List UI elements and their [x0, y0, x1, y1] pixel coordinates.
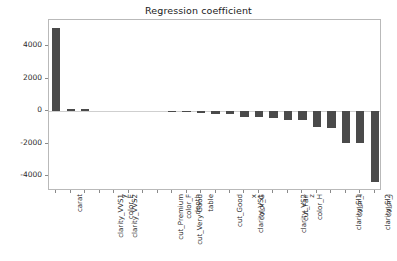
y-tick-mark: [45, 143, 48, 144]
bar: [211, 111, 219, 113]
x-tick-label: color_H: [316, 194, 324, 220]
y-tick-mark: [45, 78, 48, 79]
bar: [342, 111, 350, 143]
y-tick-label: -2000: [0, 138, 42, 147]
bar: [327, 111, 335, 128]
bar: [81, 109, 89, 111]
x-tick-label: cut_Premium: [176, 194, 184, 240]
x-tick-label: table: [206, 194, 214, 212]
x-tick-mark: [171, 190, 172, 193]
bar: [67, 109, 75, 111]
bar: [284, 111, 292, 119]
x-tick-mark: [70, 190, 71, 193]
x-tick-label: y: [120, 194, 128, 198]
bar: [226, 111, 234, 114]
bar: [356, 111, 364, 143]
bar: [182, 111, 190, 112]
y-tick-mark: [45, 110, 48, 111]
bar: [298, 111, 306, 120]
x-tick-mark: [243, 190, 244, 193]
bars-layer: [49, 20, 380, 189]
x-tick-mark: [128, 190, 129, 193]
bar: [197, 111, 205, 113]
x-tick-mark: [215, 190, 216, 193]
x-tick-mark: [272, 190, 273, 193]
x-tick-label: x: [251, 194, 259, 198]
figure: Regression coefficient caratclarity_VVS1…: [0, 0, 397, 261]
y-tick-label: 0: [0, 105, 42, 114]
x-tick-mark: [55, 190, 56, 193]
x-tick-mark: [330, 190, 331, 193]
x-tick-label: color_I: [356, 194, 364, 217]
bar: [255, 111, 263, 117]
x-tick-mark: [374, 190, 375, 193]
bar: [269, 111, 277, 117]
bar: [313, 111, 321, 127]
x-tick-mark: [359, 190, 360, 193]
x-tick-mark: [229, 190, 230, 193]
bar: [52, 28, 60, 112]
x-tick-mark: [345, 190, 346, 193]
y-tick-label: 2000: [0, 73, 42, 82]
x-tick-mark: [316, 190, 317, 193]
x-tick-label: color_F: [184, 194, 192, 219]
x-tick-mark: [258, 190, 259, 193]
x-tick-label: cut_Good: [236, 194, 244, 227]
x-tick-mark: [99, 190, 100, 193]
x-tick-mark: [200, 190, 201, 193]
x-tick-mark: [157, 190, 158, 193]
bar: [168, 111, 176, 112]
x-tick-label: color_G: [258, 194, 266, 220]
y-tick-label: 4000: [0, 40, 42, 49]
y-tick-label: -4000: [0, 170, 42, 179]
x-tick-label: color_J: [385, 194, 393, 217]
x-tick-label: carat: [76, 194, 84, 212]
y-tick-mark: [45, 175, 48, 176]
x-tick-mark: [287, 190, 288, 193]
x-tick-mark: [84, 190, 85, 193]
x-tick-mark: [142, 190, 143, 193]
x-tick-label: z: [308, 194, 316, 198]
x-tick-mark: [113, 190, 114, 193]
bar: [371, 111, 379, 182]
x-tick-label: clarity_VVS1: [116, 194, 124, 238]
x-tick-label: depth: [194, 194, 202, 214]
plot-area: [48, 19, 381, 190]
x-tick-mark: [301, 190, 302, 193]
bar: [240, 111, 248, 116]
x-tick-label: cut_Fair: [302, 194, 310, 221]
x-tick-mark: [186, 190, 187, 193]
chart-title: Regression coefficient: [0, 5, 397, 16]
y-tick-mark: [45, 45, 48, 46]
